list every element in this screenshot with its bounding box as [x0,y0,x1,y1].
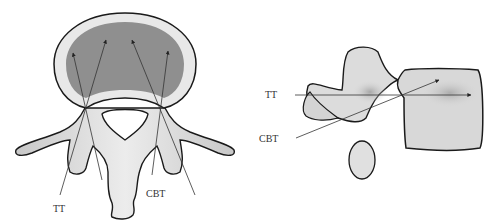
pedicle-screw-trajectory-diagram: TT CBT TT CBT [0,0,493,220]
axial-tt-label: TT [53,203,65,214]
axial-cbt-label: CBT [146,188,165,199]
lateral-body-shading [420,78,480,108]
vertebral-body-cancellous [66,22,184,98]
lateral-tt-label: TT [265,89,277,100]
axial-view: TT CBT [16,13,235,219]
lateral-view: TT CBT [259,47,483,179]
lateral-spinous-shading [352,80,388,104]
lateral-transverse-process [349,141,375,179]
lateral-cbt-label: CBT [259,133,278,144]
